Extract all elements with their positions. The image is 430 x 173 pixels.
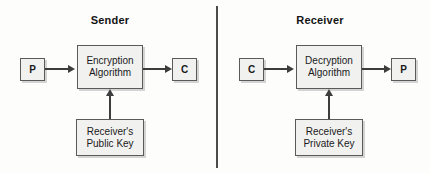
receiver-ciphertext-box: C	[239, 58, 264, 81]
sender-public-key-box: Receiver's Public Key	[76, 119, 144, 156]
receiver-key-to-algorithm-line	[328, 96, 330, 119]
sender-plaintext-label: P	[29, 64, 36, 76]
sender-algorithm-to-ciphertext-line	[143, 68, 166, 70]
panel-divider	[216, 6, 218, 168]
sender-key-line1: Receiver's	[87, 126, 133, 138]
receiver-key-line2: Private Key	[303, 138, 354, 150]
sender-ciphertext-label: C	[181, 64, 188, 76]
receiver-plaintext-label: P	[400, 64, 407, 76]
receiver-algorithm-to-plaintext-arrowhead	[384, 65, 391, 73]
sender-plaintext-box: P	[20, 58, 45, 81]
sender-panel-title: Sender	[91, 14, 130, 26]
receiver-algorithm-line1: Decryption	[305, 55, 353, 67]
sender-algorithm-line2: Algorithm	[89, 67, 131, 79]
receiver-algorithm-line2: Algorithm	[308, 67, 350, 79]
sender-key-line2: Public Key	[86, 138, 133, 150]
crypto-flow-diagram: Sender Receiver P Encryption Algorithm C…	[0, 0, 430, 173]
sender-algorithm-to-ciphertext-arrowhead	[165, 65, 172, 73]
receiver-algorithm-to-plaintext-line	[362, 68, 385, 70]
receiver-ciphertext-to-algorithm-line	[264, 68, 288, 70]
receiver-ciphertext-label: C	[248, 64, 255, 76]
sender-encryption-algorithm-box: Encryption Algorithm	[77, 45, 143, 89]
sender-key-to-algorithm-arrowhead	[106, 89, 114, 96]
receiver-decryption-algorithm-box: Decryption Algorithm	[296, 45, 362, 89]
receiver-ciphertext-to-algorithm-arrowhead	[287, 65, 294, 73]
sender-ciphertext-box: C	[172, 58, 197, 81]
sender-algorithm-line1: Encryption	[86, 55, 133, 67]
receiver-panel-title: Receiver	[296, 14, 343, 26]
receiver-plaintext-box: P	[391, 58, 416, 81]
sender-key-to-algorithm-line	[109, 96, 111, 119]
sender-plaintext-to-algorithm-arrowhead	[68, 65, 75, 73]
receiver-key-line1: Receiver's	[306, 126, 352, 138]
sender-plaintext-to-algorithm-line	[45, 68, 69, 70]
receiver-private-key-box: Receiver's Private Key	[295, 119, 363, 156]
receiver-key-to-algorithm-arrowhead	[325, 89, 333, 96]
